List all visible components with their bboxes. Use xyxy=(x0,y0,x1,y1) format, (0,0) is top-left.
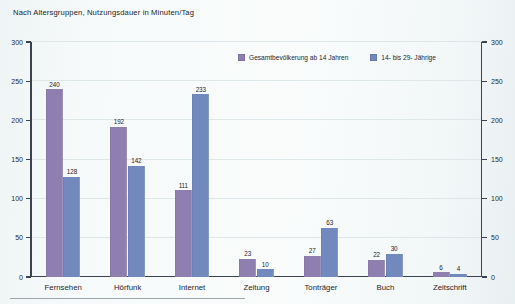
y-axis-tick-left xyxy=(26,159,31,160)
x-axis-category-buch: Buch xyxy=(376,283,394,292)
bar: 6 xyxy=(433,272,450,277)
bar-value-label: 6 xyxy=(439,264,442,271)
x-axis-category-zeitung: Zeitung xyxy=(243,283,269,292)
bar-value-label: 240 xyxy=(49,81,59,88)
y-axis-tick-left xyxy=(26,120,31,121)
x-axis-category-tonträger: Tonträger xyxy=(304,283,337,292)
bar-group: 240128 xyxy=(46,42,81,277)
x-axis-category-internet: Internet xyxy=(179,283,205,292)
y-axis-label-left-50: 50 xyxy=(15,234,23,241)
x-axis-category-hörfunk: Hörfunk xyxy=(114,283,141,292)
y-axis-tick-left xyxy=(26,237,31,238)
y-axis-label-left-200: 200 xyxy=(11,117,23,124)
bar: 111 xyxy=(175,190,192,277)
y-axis-label-left-0: 0 xyxy=(19,274,23,281)
chart-title: Nach Altersgruppen, Nutzungsdauer in Min… xyxy=(13,8,194,17)
bar-value-label: 23 xyxy=(244,250,251,257)
bar: 30 xyxy=(386,254,403,278)
bar-series-container: 24012819214211123323102763223064 xyxy=(31,42,482,277)
bar-value-label: 63 xyxy=(326,219,333,226)
y-axis-tick-right xyxy=(482,120,487,121)
y-axis-tick-right xyxy=(482,276,487,277)
x-axis-category-fernsehen: Fernsehen xyxy=(45,283,82,292)
bar-value-label: 4 xyxy=(457,265,460,272)
bar-value-label: 142 xyxy=(131,157,141,164)
bar: 142 xyxy=(128,166,145,277)
y-axis-label-right-300: 300 xyxy=(491,39,503,46)
x-axis-category-zeitschrift: Zeitschrift xyxy=(433,283,467,292)
y-axis-label-right-50: 50 xyxy=(491,234,499,241)
y-axis-tick-left xyxy=(26,276,31,277)
y-axis-tick-left xyxy=(26,41,31,42)
y-axis-label-right-150: 150 xyxy=(491,156,503,163)
bar-value-label: 111 xyxy=(179,182,188,189)
y-axis-tick-right xyxy=(482,159,487,160)
y-axis-label-right-100: 100 xyxy=(491,195,503,202)
bar-group: 2310 xyxy=(239,42,274,277)
bar: 23 xyxy=(239,259,256,277)
y-axis-label-right-0: 0 xyxy=(491,274,495,281)
bar-value-label: 233 xyxy=(196,86,206,93)
x-axis-category-labels: FernsehenHörfunkInternetZeitungTonträger… xyxy=(31,283,482,297)
y-axis-tick-right xyxy=(482,237,487,238)
bar-group: 2230 xyxy=(368,42,403,277)
bar-value-label: 22 xyxy=(373,251,380,258)
y-axis-label-left-250: 250 xyxy=(11,78,23,85)
y-axis-tick-left xyxy=(26,198,31,199)
bar: 233 xyxy=(192,94,209,277)
bar-value-label: 27 xyxy=(309,247,316,254)
bar-value-label: 192 xyxy=(114,118,124,125)
bar-value-label: 30 xyxy=(391,245,398,252)
y-axis-label-right-200: 200 xyxy=(491,117,503,124)
y-axis-label-left-150: 150 xyxy=(11,156,23,163)
page-divider xyxy=(10,298,245,299)
bar: 240 xyxy=(46,89,63,277)
y-axis-tick-right xyxy=(482,81,487,82)
bar-group: 64 xyxy=(433,42,468,277)
bar: 22 xyxy=(368,260,385,277)
y-axis-tick-right xyxy=(482,198,487,199)
bar-group: 192142 xyxy=(110,42,145,277)
bar: 4 xyxy=(450,274,467,277)
bar: 27 xyxy=(304,256,321,277)
bar: 10 xyxy=(257,269,274,277)
bar-group: 2763 xyxy=(304,42,339,277)
bar: 63 xyxy=(321,228,338,277)
y-axis-tick-right xyxy=(482,41,487,42)
bar-value-label: 128 xyxy=(67,168,77,175)
y-axis-label-left-300: 300 xyxy=(11,39,23,46)
y-axis-tick-left xyxy=(26,81,31,82)
bar-group: 111233 xyxy=(175,42,210,277)
bar: 128 xyxy=(63,177,80,277)
bar-value-label: 10 xyxy=(262,261,269,268)
y-axis-label-left-100: 100 xyxy=(11,195,23,202)
chart-page: Nach Altersgruppen, Nutzungsdauer in Min… xyxy=(0,0,515,304)
y-axis-label-right-250: 250 xyxy=(491,78,503,85)
plot-area: 050100150200250300 050100150200250300 24… xyxy=(31,42,482,277)
bar: 192 xyxy=(110,127,127,277)
